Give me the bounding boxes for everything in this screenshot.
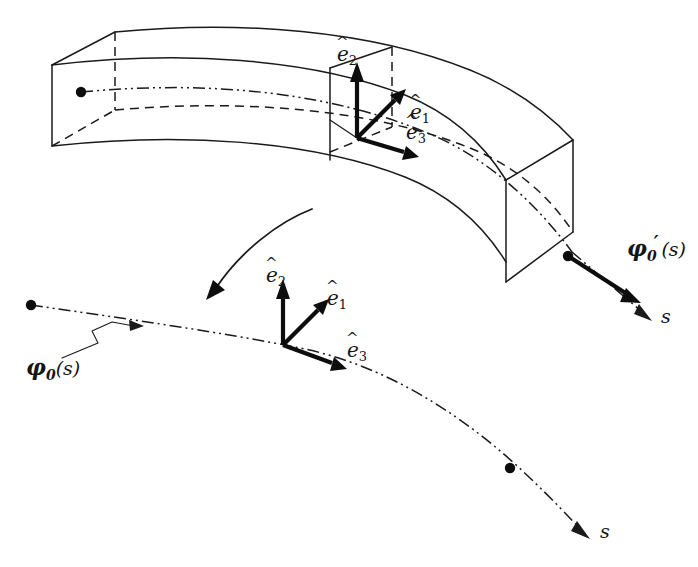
beam-top-front-edge xyxy=(52,58,506,180)
figure-root: ^e2 ^e1 ^e3 ^e2 ^e1 ^e3 φ0′(s) φ0(s) s s xyxy=(0,0,698,567)
phi0-leader-group xyxy=(62,320,144,358)
tangent-vector-label: φ0′(s) xyxy=(627,237,686,259)
rotation-arrow-head xyxy=(206,280,225,300)
lower-e1-label: ^e1 xyxy=(327,288,347,308)
rotation-arrow-shaft xyxy=(216,209,312,288)
beam-right-top-edge xyxy=(506,140,573,180)
beam-centerline-group xyxy=(76,87,652,321)
rotation-arrow-group xyxy=(206,209,312,300)
phi0-leader-arrowhead xyxy=(129,320,144,331)
curve-centerline-group xyxy=(26,300,590,539)
tangent-vector-group xyxy=(568,256,641,303)
curve-arclength-arrowhead xyxy=(571,521,590,539)
lower-e3-label: ^e3 xyxy=(347,340,367,360)
upper-e2-label: ^e2 xyxy=(337,44,357,64)
curve-marker-dot xyxy=(505,463,515,473)
curve-arclength-label: s xyxy=(600,522,610,541)
centerline-start-dot xyxy=(76,87,86,97)
curve-start-dot xyxy=(26,300,36,310)
beam-body xyxy=(52,27,573,282)
beam-left-bottom-edge-hidden xyxy=(52,110,115,146)
beam-bottom-front-edge xyxy=(52,140,506,262)
phi0-leader-line xyxy=(62,322,134,358)
tangent-vector-shaft xyxy=(568,256,630,296)
upper-triad-corner-guide xyxy=(330,120,357,138)
beam-bottom-back-edge-hidden xyxy=(115,106,573,232)
lower-e2-label: ^e2 xyxy=(266,265,286,285)
diagram-canvas xyxy=(0,0,698,567)
upper-e3-label: ^e3 xyxy=(406,122,426,142)
centerline-function-label: φ0(s) xyxy=(26,356,80,378)
lower-e1-shaft xyxy=(283,310,318,345)
beam-arclength-label: s xyxy=(661,307,671,326)
upper-e3-arrowhead xyxy=(402,146,419,160)
lower-e3-arrowhead xyxy=(330,357,347,371)
upper-e3-shaft xyxy=(357,138,404,152)
curve-centerline xyxy=(31,305,582,531)
